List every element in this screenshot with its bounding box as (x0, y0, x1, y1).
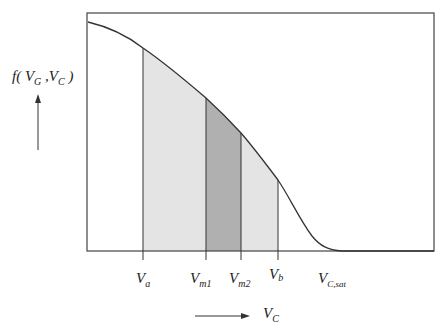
marker-sub: m1 (199, 278, 211, 289)
marker-label-vb: Vb (269, 266, 283, 283)
marker-label-vm2: Vm2 (229, 270, 250, 289)
y-label-end: ) (65, 68, 74, 84)
y-arrow-head-icon (35, 94, 41, 103)
marker-sub: m2 (238, 278, 250, 289)
marker-main: V (318, 270, 327, 286)
x-arrow-head-icon (241, 313, 250, 319)
marker-main: V (229, 270, 238, 286)
shaded-region-vm2-vb (241, 133, 278, 251)
shaded-region-vm1-vm2 (206, 98, 241, 251)
y-label-sub-c: C (58, 76, 65, 87)
x-label-sub: C (272, 313, 279, 324)
y-axis-label: f( VG ,VC ) (12, 68, 73, 87)
y-label-mid: ,V (41, 68, 58, 84)
x-axis-label: VC (263, 305, 279, 324)
marker-main: V (269, 266, 278, 282)
marker-sub: C,sat (327, 279, 346, 289)
shaded-region-va-vm1 (143, 48, 206, 251)
marker-sub: b (278, 272, 283, 283)
marker-main: V (190, 270, 199, 286)
marker-main: V (136, 270, 145, 286)
marker-label-va: Va (136, 270, 150, 289)
x-label-main: V (263, 305, 272, 321)
marker-label-vcsat: VC,sat (318, 270, 346, 289)
y-label-main: f( V (12, 68, 34, 84)
marker-sub: a (145, 278, 150, 289)
diagram-canvas (0, 0, 444, 333)
marker-label-vm1: Vm1 (190, 270, 211, 289)
